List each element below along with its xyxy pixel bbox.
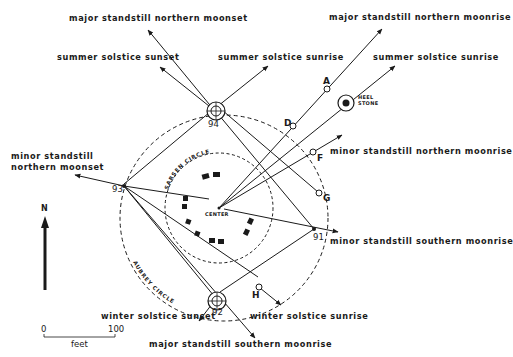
heel-stone-marker bbox=[338, 95, 354, 111]
line-94-summer-sunrise bbox=[218, 66, 268, 106]
station-93-label: 93 bbox=[112, 184, 123, 194]
label-summer-solstice-sunrise-upper: summer solstice sunrise bbox=[218, 52, 344, 62]
line-94-major-northern-moonset bbox=[148, 30, 214, 110]
scale-end-label: 100 bbox=[108, 324, 124, 334]
marker-H-label: H bbox=[252, 290, 260, 300]
center-dot bbox=[218, 207, 221, 210]
station-91-dot bbox=[312, 227, 316, 231]
station-94-marker bbox=[207, 102, 225, 120]
label-minor-standstill-northern-moonrise: minor standstill northern moonrise bbox=[330, 146, 513, 156]
north-label: N bbox=[41, 204, 48, 214]
scale-unit-label: feet bbox=[71, 339, 88, 349]
label-summer-solstice-sunset: summer solstice sunset bbox=[57, 52, 179, 62]
line-H-winter-sunrise bbox=[260, 288, 281, 305]
label-minor-standstill-southern-moonrise: minor standstill southern moonrise bbox=[330, 236, 513, 246]
station-91-label: 91 bbox=[313, 232, 324, 242]
heel-stone-label-2: STONE bbox=[358, 100, 378, 106]
label-minor-standstill-northern-moonset-2: northern moonset bbox=[11, 162, 104, 172]
line-center-minor-southern-moonrise bbox=[224, 209, 338, 232]
aubrey-circle-label: AUBREY CIRCLE bbox=[132, 260, 176, 305]
label-major-standstill-southern-moonrise: major standstill southern moonrise bbox=[149, 339, 332, 349]
label-winter-solstice-sunset: winter solstice sunset bbox=[101, 311, 216, 321]
marker-D-label: D bbox=[284, 118, 291, 128]
label-summer-solstice-sunrise-right: summer solstice sunrise bbox=[373, 52, 499, 62]
sarsen-circle-label: SARSEN CIRCLE bbox=[163, 148, 210, 190]
label-winter-solstice-sunrise: winter solstice sunrise bbox=[250, 311, 368, 321]
station-92-label: 92 bbox=[212, 307, 223, 317]
label-minor-standstill-northern-moonset-1: minor standstill bbox=[11, 151, 94, 161]
scale-start-label: 0 bbox=[41, 324, 46, 334]
line-94-93 bbox=[124, 112, 210, 184]
line-94-summer-sunset bbox=[160, 67, 214, 110]
line-center-summer-sunrise bbox=[219, 66, 395, 208]
marker-F bbox=[310, 149, 316, 155]
marker-A bbox=[324, 86, 330, 92]
scale-bar bbox=[44, 334, 115, 337]
label-major-standstill-northern-moonrise: major standstill northern moonrise bbox=[329, 12, 511, 22]
line-93-92 bbox=[124, 186, 214, 296]
north-arrow-head bbox=[41, 216, 49, 228]
marker-G bbox=[316, 190, 322, 196]
line-94-91 bbox=[218, 114, 314, 229]
station-94-label: 94 bbox=[208, 119, 219, 129]
marker-F-label: F bbox=[317, 153, 323, 163]
marker-G-label: G bbox=[323, 193, 330, 203]
label-major-standstill-northern-moonset: major standstill northern moonset bbox=[69, 13, 248, 23]
marker-A-label: A bbox=[323, 76, 330, 86]
center-label: CENTER bbox=[205, 211, 229, 217]
